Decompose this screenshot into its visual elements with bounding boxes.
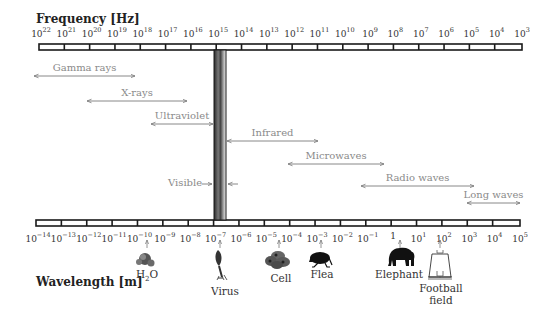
flea-label: Flea [310, 268, 333, 280]
ultraviolet-label: Ultraviolet [155, 110, 209, 121]
football-field-icon [428, 250, 452, 279]
visible-light-column [214, 50, 226, 220]
wavelength-scale-bar [36, 220, 520, 226]
frequency-scale-bar [39, 44, 522, 50]
microwaves-label: Microwaves [305, 150, 366, 161]
virus-label: Virus [211, 285, 239, 297]
radio-waves-label: Radio waves [386, 172, 450, 183]
h2o-label: H2O [136, 268, 158, 285]
spectrum-diagram [0, 0, 549, 317]
infrared-label: Infrared [252, 127, 294, 138]
cell-icon [265, 251, 290, 269]
gamma-rays-label: Gamma rays [53, 62, 117, 73]
cell-label: Cell [271, 272, 292, 284]
x-rays-label: X-rays [121, 87, 153, 98]
water-molecule-icon [136, 253, 155, 267]
long-waves-label: Long waves [464, 189, 524, 200]
virus-icon [215, 250, 227, 280]
visible-label: Visible [168, 177, 202, 188]
object-pointer-arrows [147, 240, 440, 248]
elephant-label: Elephant [375, 268, 423, 280]
flea-icon [309, 252, 332, 267]
elephant-icon [388, 248, 414, 266]
football-field-label: Footballfield [419, 282, 462, 306]
band-arrows [34, 76, 520, 203]
